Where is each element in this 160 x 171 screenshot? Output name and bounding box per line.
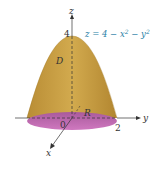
region-label-r: R (83, 108, 91, 118)
x-axis-label: x (46, 148, 51, 158)
solid-label-d: D (55, 56, 63, 66)
origin-label: 0 (60, 120, 66, 130)
z-axis-label: z (68, 6, 74, 16)
surface-equation: z = 4 − x2 − y2 (84, 28, 150, 39)
y-axis-arrow-icon (136, 116, 141, 120)
y-tick-2: 2 (115, 123, 121, 133)
z-tick-4: 4 (64, 29, 70, 39)
paraboloid-diagram: z y x 4 2 0 D R z = 4 − x2 − y2 (0, 0, 160, 171)
y-axis-label: y (142, 113, 149, 123)
region-r-disk (27, 112, 117, 130)
